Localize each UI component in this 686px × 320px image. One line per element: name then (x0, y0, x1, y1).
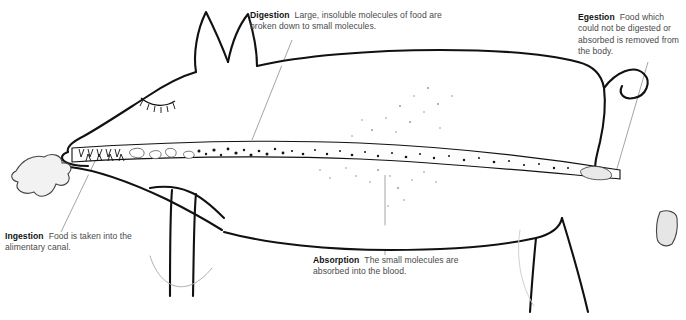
food-chunk (150, 151, 162, 159)
molecule-dot (478, 157, 480, 159)
absorbed-dot (423, 171, 425, 173)
absorbed-dot (385, 117, 387, 119)
molecule-dot (282, 152, 285, 155)
molecule-dot (567, 167, 569, 169)
molecule-dot (391, 152, 393, 154)
absorbed-dot (451, 95, 453, 97)
head-top-contour (68, 72, 196, 152)
hind-leg-far (562, 218, 588, 312)
absorbed-dot (397, 187, 399, 189)
callout-egestion-term: Egestion (578, 12, 615, 22)
absorbed-dot (345, 167, 347, 169)
callout-absorption-term: Absorption (313, 255, 359, 265)
hoof-arc-front (150, 256, 212, 287)
eyelash (147, 104, 149, 110)
absorbed-dot (389, 175, 391, 177)
absorbed-dot (371, 129, 373, 131)
absorbed-dot (423, 111, 425, 113)
absorbed-dot (355, 175, 357, 177)
molecule-dot (198, 150, 201, 153)
molecule-dot (419, 153, 421, 155)
absorbed-dot (387, 205, 389, 207)
molecule-dot (339, 150, 341, 152)
food-bolus-icon (12, 155, 71, 197)
absorbed-dot (377, 169, 379, 171)
molecule-dot (291, 150, 293, 152)
callout-absorption: AbsorptionThe small molecules are absorb… (313, 255, 483, 278)
canal-tube-outline (72, 141, 620, 179)
callout-digestion: DigestionLarge, insoluble molecules of f… (250, 10, 465, 33)
alimentary-canal (72, 141, 620, 179)
molecule-dot (258, 150, 261, 153)
molecule-dot (508, 160, 510, 162)
molecule-dot (523, 164, 525, 166)
back-contour (257, 50, 578, 66)
absorbed-dot (399, 105, 401, 107)
eyelash (173, 103, 175, 109)
absorbed-dot (411, 179, 413, 181)
diagram-canvas: DigestionLarge, insoluble molecules of f… (0, 0, 686, 320)
front-leg-far (170, 190, 172, 296)
molecule-dot (433, 157, 435, 159)
eyelash (154, 106, 155, 112)
molecule-dot (448, 155, 450, 157)
absorbed-dot (437, 103, 439, 105)
food-chunk (184, 151, 195, 158)
molecule-dot (326, 153, 328, 155)
molecule-dot (538, 163, 540, 165)
molecule-dot (250, 154, 253, 157)
leader-line-digestion (252, 40, 292, 140)
molecule-dot (463, 159, 465, 161)
absorbed-dot (403, 199, 405, 201)
molecule-dot (243, 149, 245, 151)
absorbed-dot (329, 177, 331, 179)
molecule-dot (493, 161, 496, 164)
food-chunk (130, 148, 145, 158)
molecule-dot (274, 148, 276, 150)
absorbed-dot (319, 169, 321, 171)
callout-digestion-term: Digestion (250, 10, 290, 20)
molecule-dot (212, 148, 215, 151)
molecule-dot (205, 153, 207, 155)
jaw-contour (70, 167, 222, 230)
callout-egestion: EgestionFood which could not be digested… (578, 12, 684, 58)
curled-tail-icon (604, 70, 648, 99)
front-leg-near (193, 194, 196, 296)
absorbed-dot (409, 121, 411, 123)
molecule-dot (266, 153, 269, 156)
callout-ingestion: IngestionFood is taken into the alimenta… (5, 231, 145, 254)
absorbed-dot (427, 87, 429, 89)
molecule-dot (314, 149, 316, 151)
molecule-dot (234, 151, 237, 154)
callout-ingestion-term: Ingestion (5, 231, 44, 241)
absorbed-dot (439, 127, 441, 129)
absorbed-dot (361, 119, 363, 121)
molecule-dot (377, 155, 379, 157)
molecule-dot (364, 151, 366, 153)
eyelash (167, 106, 168, 112)
molecule-dot (227, 148, 230, 151)
molecule-dot (405, 156, 408, 159)
molecule-dot (302, 153, 305, 156)
rump-contour (578, 62, 605, 172)
belly-contour (224, 218, 562, 250)
absorbed-dot (413, 95, 415, 97)
faecal-pellet-icon (657, 211, 678, 246)
ear-front-icon (195, 12, 228, 72)
molecule-dot (220, 154, 222, 156)
leader-line-egestion (616, 62, 648, 172)
absorbed-dot (435, 181, 437, 183)
molecule-dot (351, 154, 354, 157)
absorbed-dot (395, 131, 397, 133)
absorbed-dot (369, 181, 371, 183)
molecule-dot (553, 167, 555, 169)
absorbed-dot (351, 135, 353, 137)
